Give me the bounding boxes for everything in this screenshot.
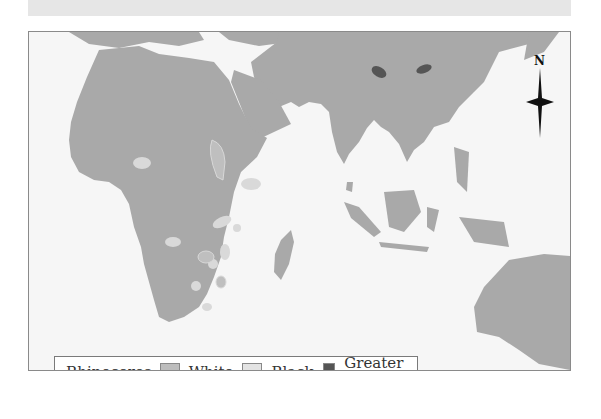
land-madagascar bbox=[274, 230, 294, 280]
land-borneo bbox=[384, 190, 421, 232]
land-java bbox=[379, 242, 429, 252]
land-europe bbox=[69, 32, 204, 48]
legend-title: Rhinoceros bbox=[66, 363, 152, 371]
map-canvas bbox=[29, 32, 570, 370]
legend-item-black: Black bbox=[242, 363, 313, 371]
land-sumatra bbox=[344, 202, 381, 237]
land-sri-lanka bbox=[346, 182, 353, 192]
white-swatch-icon bbox=[160, 363, 180, 371]
land-sulawesi bbox=[427, 207, 439, 232]
legend-label: Black bbox=[271, 363, 313, 371]
black-swatch-icon bbox=[242, 363, 262, 371]
legend-item-greater-indian: Greater Indian bbox=[323, 354, 411, 371]
land-asia bbox=[251, 32, 529, 164]
greater-indian-swatch-icon bbox=[323, 363, 336, 371]
legend-item-white: White bbox=[160, 363, 234, 371]
legend-label: White bbox=[189, 363, 234, 371]
land-new-guinea bbox=[459, 217, 509, 247]
map-frame: N Rhinoceros White Black Greater Indian bbox=[28, 31, 571, 371]
north-label: N bbox=[534, 54, 545, 68]
land-australia bbox=[474, 254, 570, 370]
map-legend: Rhinoceros White Black Greater Indian bbox=[54, 356, 418, 371]
land-philippines bbox=[454, 147, 469, 192]
top-banner bbox=[28, 0, 571, 16]
legend-label: Greater Indian bbox=[344, 354, 410, 371]
north-arrow-icon bbox=[526, 68, 556, 158]
north-arrow: N bbox=[526, 54, 556, 144]
